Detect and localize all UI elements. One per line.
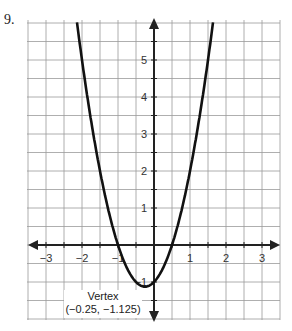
svg-text:−3: −3 [40, 252, 53, 264]
svg-text:4: 4 [141, 91, 147, 103]
svg-text:2: 2 [141, 165, 147, 177]
svg-text:3: 3 [259, 252, 265, 264]
y-axis-up-arrow-icon [149, 18, 159, 29]
vertex-title: Vertex [87, 290, 119, 302]
x-tick-labels: −3 −2 −1 1 2 3 [40, 252, 265, 264]
parabola-chart: −3 −2 −1 1 2 3 5 4 3 2 1 −1 Vertex (−0.2… [0, 0, 292, 331]
y-axis-down-arrow-icon [149, 311, 159, 322]
svg-text:−2: −2 [76, 252, 89, 264]
svg-text:2: 2 [223, 252, 229, 264]
x-axis-left-arrow-icon [28, 240, 38, 250]
svg-text:5: 5 [141, 54, 147, 66]
vertex-coords: (−0.25, −1.125) [65, 303, 140, 315]
svg-text:1: 1 [187, 252, 193, 264]
x-axis-right-arrow-icon [270, 240, 280, 250]
svg-text:1: 1 [141, 202, 147, 214]
svg-text:3: 3 [141, 128, 147, 140]
